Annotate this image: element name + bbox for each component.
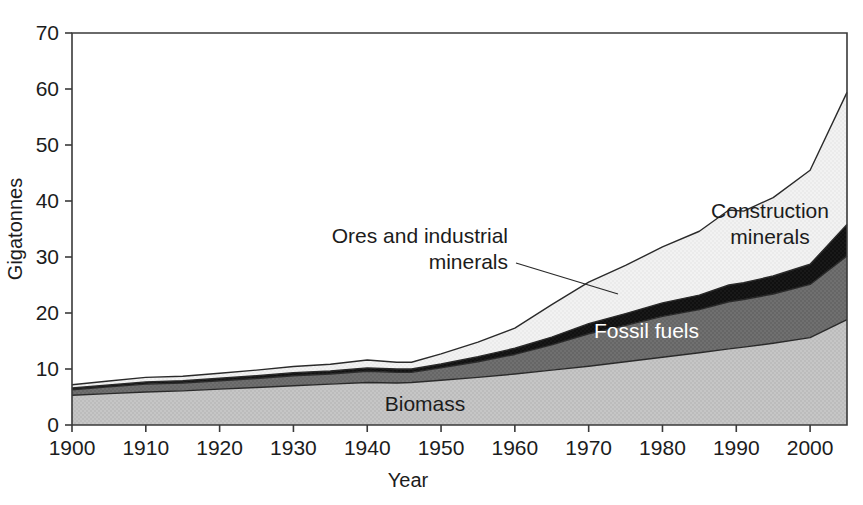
annotation-construction-line1: Construction (711, 199, 829, 222)
x-tick-label: 1940 (344, 436, 391, 459)
y-tick-label: 40 (36, 189, 59, 212)
x-tick-label: 1970 (565, 436, 612, 459)
y-tick-label: 0 (47, 413, 59, 436)
x-tick-label: 1920 (196, 436, 243, 459)
annotation-biomass: Biomass (385, 392, 466, 415)
x-tick-label: 1960 (491, 436, 538, 459)
stacked-area-chart: 010203040506070 190019101920193019401950… (0, 0, 863, 505)
x-axis-title: Year (388, 469, 429, 491)
annotation-ores-line2: minerals (429, 250, 508, 273)
x-tick-label: 2000 (787, 436, 834, 459)
x-tick-label: 1980 (639, 436, 686, 459)
y-tick-label: 20 (36, 301, 59, 324)
annotation-fossil-fuels: Fossil fuels (594, 319, 699, 342)
y-tick-label: 30 (36, 245, 59, 268)
y-tick-label: 60 (36, 77, 59, 100)
x-tick-label: 1990 (713, 436, 760, 459)
y-tick-label: 50 (36, 133, 59, 156)
x-tick-label: 1950 (418, 436, 465, 459)
annotation-construction-line2: minerals (730, 225, 809, 248)
x-tick-label: 1910 (122, 436, 169, 459)
y-axis-title: Gigatonnes (4, 178, 26, 280)
y-tick-label: 70 (36, 21, 59, 44)
x-tick-label: 1930 (270, 436, 317, 459)
annotation-ores-line1: Ores and industrial (332, 224, 508, 247)
y-tick-label: 10 (36, 357, 59, 380)
chart-container: 010203040506070 190019101920193019401950… (0, 0, 863, 505)
x-tick-label: 1900 (49, 436, 96, 459)
